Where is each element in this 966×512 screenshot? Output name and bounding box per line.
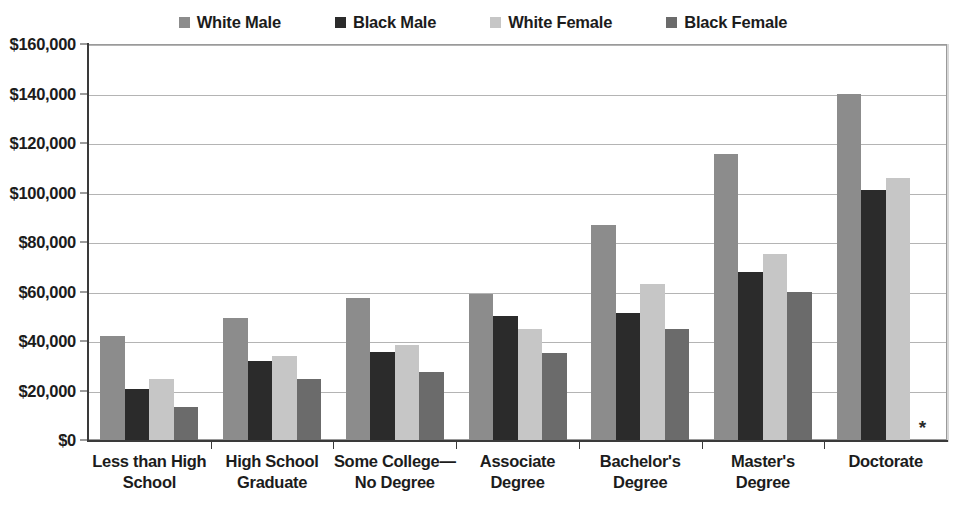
- legend-swatch-icon: [335, 17, 346, 28]
- bar: [542, 353, 567, 440]
- bar: [518, 329, 543, 440]
- legend-swatch-icon: [179, 17, 190, 28]
- y-axis-tick: [80, 341, 88, 342]
- bar: [469, 294, 494, 440]
- legend-swatch-icon: [666, 17, 677, 28]
- y-axis-label: $80,000: [0, 233, 76, 252]
- legend-label: White Female: [508, 13, 612, 32]
- x-axis-tick: [211, 441, 212, 449]
- bar: [787, 292, 812, 441]
- legend-label: White Male: [197, 13, 281, 32]
- y-axis-tick: [80, 242, 88, 243]
- chart-legend: White MaleBlack MaleWhite FemaleBlack Fe…: [0, 8, 966, 36]
- y-axis-tick: [80, 390, 88, 391]
- x-axis-tick: [702, 441, 703, 449]
- bar: [395, 345, 420, 440]
- y-axis-tick: [80, 192, 88, 193]
- bar: [837, 94, 862, 441]
- bar: [616, 313, 641, 440]
- x-axis-line: [87, 440, 948, 442]
- y-axis-tick: [80, 44, 88, 45]
- bar: [714, 154, 739, 440]
- bar: [493, 316, 518, 440]
- bar: [763, 254, 788, 440]
- bar: [738, 272, 763, 440]
- bar: [272, 356, 297, 440]
- y-axis-label: $100,000: [0, 183, 76, 202]
- bar: [370, 352, 395, 440]
- missing-data-asterisk: *: [919, 418, 926, 437]
- legend-label: Black Male: [353, 13, 436, 32]
- x-axis-tick: [456, 441, 457, 449]
- x-axis-tick: [824, 441, 825, 449]
- bar: [346, 298, 371, 440]
- y-axis-tick: [80, 291, 88, 292]
- x-axis-label-line: Degree: [690, 472, 837, 493]
- y-axis-tick: [80, 440, 88, 441]
- bar: [248, 361, 273, 440]
- bar: [886, 178, 911, 440]
- bar: [125, 389, 150, 440]
- y-axis-tick: [80, 93, 88, 94]
- y-axis-label: $20,000: [0, 381, 76, 400]
- bars-layer: [88, 44, 947, 440]
- y-axis-label: $40,000: [0, 332, 76, 351]
- x-axis-label: Doctorate: [812, 451, 959, 472]
- bar-chart: White MaleBlack MaleWhite FemaleBlack Fe…: [0, 0, 966, 512]
- bar: [223, 318, 248, 441]
- bar: [861, 190, 886, 440]
- y-axis-tick: [80, 143, 88, 144]
- bar: [640, 284, 665, 440]
- bar: [665, 329, 690, 440]
- bar: [419, 372, 444, 440]
- x-axis-tick: [333, 441, 334, 449]
- y-axis-label: $140,000: [0, 84, 76, 103]
- legend-item: Black Male: [335, 13, 436, 32]
- y-axis-label: $120,000: [0, 134, 76, 153]
- legend-item: White Female: [490, 13, 612, 32]
- y-axis-label: $160,000: [0, 35, 76, 54]
- bar: [149, 379, 174, 440]
- legend-item: Black Female: [666, 13, 787, 32]
- legend-item: White Male: [179, 13, 281, 32]
- y-axis-label: $0: [0, 431, 76, 450]
- bar: [591, 225, 616, 440]
- bar: [297, 379, 322, 440]
- x-axis-tick: [579, 441, 580, 449]
- bar: [174, 407, 199, 440]
- bar: [100, 336, 125, 440]
- x-axis-label-line: Doctorate: [812, 451, 959, 472]
- legend-swatch-icon: [490, 17, 501, 28]
- legend-label: Black Female: [684, 13, 787, 32]
- y-axis-label: $60,000: [0, 282, 76, 301]
